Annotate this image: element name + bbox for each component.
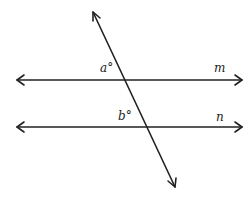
line-label-n: n <box>216 111 224 123</box>
angle-label-a: a° <box>100 62 113 74</box>
angle-label-b: b° <box>118 110 132 122</box>
line-m <box>17 75 242 85</box>
line-n <box>17 122 242 132</box>
transversal-line <box>93 12 176 187</box>
diagram-canvas <box>0 0 251 197</box>
line-label-m: m <box>214 62 225 74</box>
